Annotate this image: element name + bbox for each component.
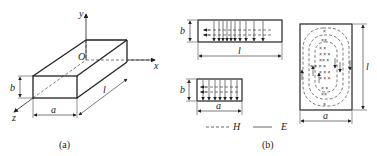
dim-b-label: b bbox=[10, 82, 15, 93]
y-axis-label: y bbox=[78, 8, 84, 19]
dim-l-label: l bbox=[103, 84, 106, 95]
legend: H E bbox=[206, 121, 287, 132]
end-view bbox=[186, 79, 242, 115]
top-l-label: l bbox=[366, 61, 369, 72]
svg-text:× × ×: × × × bbox=[319, 75, 331, 81]
end-a-label: a bbox=[216, 100, 221, 111]
caption-a: (a) bbox=[59, 139, 70, 151]
side-l-label: l bbox=[238, 45, 241, 56]
origin-label: O bbox=[78, 51, 85, 62]
waveguide-diagram: y x z O b a l (a) b bbox=[0, 0, 377, 156]
figure-a-box bbox=[14, 14, 155, 118]
end-b-label: b bbox=[180, 84, 185, 95]
svg-text:×: × bbox=[323, 28, 326, 34]
caption-b: (b) bbox=[262, 139, 274, 151]
legend-h-label: H bbox=[232, 121, 241, 132]
side-b-label: b bbox=[180, 25, 185, 36]
dim-a-label: a bbox=[51, 104, 56, 115]
legend-e-label: E bbox=[280, 121, 287, 132]
svg-text:××: ×× bbox=[321, 91, 327, 97]
top-view bbox=[300, 24, 367, 124]
side-view bbox=[187, 20, 282, 60]
z-axis bbox=[14, 98, 33, 112]
top-a-label: a bbox=[323, 110, 328, 121]
svg-text:×: × bbox=[323, 101, 326, 107]
svg-text:××: ×× bbox=[321, 37, 327, 43]
z-axis-label: z bbox=[11, 112, 16, 123]
x-axis-label: x bbox=[153, 60, 159, 71]
